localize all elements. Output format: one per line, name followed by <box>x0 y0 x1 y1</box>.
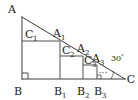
label-point-B3: B 3 <box>94 85 106 100</box>
inscribed-square-2 <box>60 56 83 79</box>
label-angle-value: 30 <box>111 54 121 63</box>
segment-AC-hypotenuse <box>22 17 125 79</box>
label-point-B1: B 1 <box>54 85 66 100</box>
right-angle-mark-B3 <box>97 75 101 79</box>
label-point-B2: B 2 <box>77 85 89 100</box>
label-angle-degree-symbol: ° <box>121 53 124 59</box>
label-vertex-B: B <box>14 85 22 98</box>
label-angle-30: 30 ° <box>111 53 124 63</box>
triangle-outline <box>22 17 125 79</box>
figure-canvas: A B C A 1 A 2 A 3 B 1 B 2 <box>0 0 138 100</box>
label-point-A1-sub: 1 <box>61 34 65 42</box>
geometry-figure: A B C A 1 A 2 A 3 B 1 B 2 <box>0 0 138 100</box>
label-point-B3-sub: 3 <box>102 92 106 100</box>
label-point-C1-sub: 1 <box>33 35 37 43</box>
label-point-C3-sub: 3 <box>92 61 96 69</box>
label-point-B2-base: B <box>77 85 85 98</box>
label-point-A3-sub: 3 <box>100 59 104 67</box>
label-point-B2-sub: 2 <box>85 92 89 100</box>
angle-arc-C <box>111 72 114 80</box>
label-point-A1: A 1 <box>52 27 65 42</box>
label-point-C2: C 2 <box>62 44 74 59</box>
label-point-C1: C 1 <box>25 28 37 43</box>
right-angle-mark-B <box>22 73 28 79</box>
continuation-ellipsis <box>99 72 106 73</box>
label-point-B1-base: B <box>54 85 62 98</box>
label-vertex-A: A <box>7 3 17 16</box>
label-vertex-C: C <box>127 73 135 86</box>
label-point-B1-sub: 1 <box>62 92 66 100</box>
label-point-C2-sub: 2 <box>70 51 74 59</box>
label-point-B3-base: B <box>94 85 102 98</box>
